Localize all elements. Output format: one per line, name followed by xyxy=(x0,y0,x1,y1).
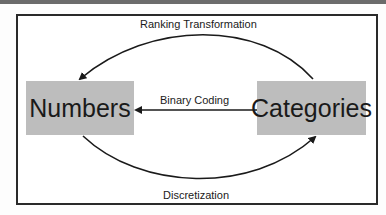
discretization-label: Discretization xyxy=(163,189,229,201)
categories-label: Categories xyxy=(251,94,372,123)
ranking-transformation-label: Ranking Transformation xyxy=(140,18,257,30)
binary-coding-label: Binary Coding xyxy=(160,94,229,106)
numbers-node: Numbers xyxy=(26,81,134,135)
ranking-transformation-arrow xyxy=(80,35,313,79)
numbers-label: Numbers xyxy=(29,94,130,123)
discretization-arrow xyxy=(83,136,315,179)
categories-node: Categories xyxy=(257,81,366,135)
